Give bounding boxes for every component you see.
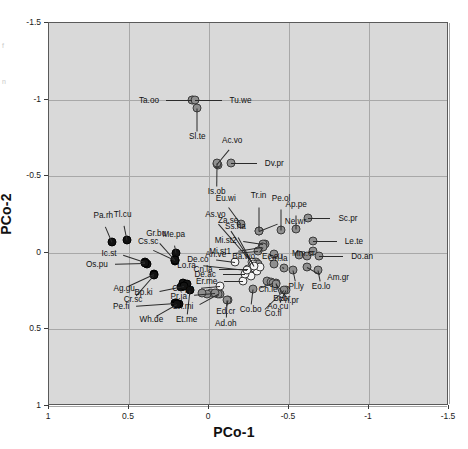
x-axis-title: PCo-1 xyxy=(0,424,468,440)
point-label-Ch.le: Ch.le xyxy=(258,285,277,294)
grid-line-vertical xyxy=(449,23,450,404)
point-label-Mm.cr: Mm.cr xyxy=(292,249,315,258)
point-label-Ad.oh: Ad.oh xyxy=(215,319,236,328)
leader-line xyxy=(281,209,282,230)
point-label-Ca.pa: Ca.pa xyxy=(172,284,194,293)
leader-line xyxy=(313,241,337,242)
x-tick-label: 1 xyxy=(46,411,51,421)
point-label-Pa.rh: Pa.rh xyxy=(94,211,114,220)
point-label-On.la: On.la xyxy=(268,254,288,263)
point-label-Co.fl: Co.fl xyxy=(265,309,282,318)
point-label-Ne.wr: Ne.wr xyxy=(285,217,306,226)
leader-line xyxy=(231,163,256,164)
point-label-Co.bo: Co.bo xyxy=(240,305,262,314)
leader-line xyxy=(308,218,330,219)
point-label-Tr.in: Tr.in xyxy=(251,191,267,200)
y-tick-label: 0.5 xyxy=(0,323,41,333)
point-label-Mi.st2: Mi.st2 xyxy=(215,236,237,245)
point-label-Ac.vo: Ac.vo xyxy=(222,136,242,145)
point-label-Pe.fi: Pe.fi xyxy=(113,302,129,311)
x-tick xyxy=(368,405,369,409)
x-tick-label: 0 xyxy=(206,411,211,421)
grid-line-vertical xyxy=(289,23,290,404)
x-tick xyxy=(288,405,289,409)
point-label-Eu.wi: Eu.wi xyxy=(216,194,236,203)
point-label-Os.pu: Os.pu xyxy=(86,260,108,269)
y-tick xyxy=(44,328,48,329)
y-axis-title: PCo-2 xyxy=(0,193,14,234)
leader-line xyxy=(195,100,222,101)
point-label-Sc.pr: Sc.pr xyxy=(338,214,357,223)
point-label-Ed.cr: Ed.cr xyxy=(216,307,235,316)
y-tick-label: -0.5 xyxy=(0,170,41,180)
point-label-Ic.st: Ic.st xyxy=(102,249,117,258)
caption-fragment: n xyxy=(2,78,6,85)
point-label-Tu.we: Tu.we xyxy=(230,96,252,105)
point-label-Pl.ly: Pl.ly xyxy=(288,282,303,291)
point-label-Do.an: Do.an xyxy=(351,252,373,261)
point-label-Wh.de: Wh.de xyxy=(140,315,164,324)
leader-line xyxy=(319,256,343,257)
point-label-Et.me: Et.me xyxy=(176,315,197,324)
x-tick xyxy=(208,405,209,409)
point-label-Bp.ki: Bp.ki xyxy=(134,288,152,297)
point-label-Pr.ja: Pr.ja xyxy=(171,292,187,301)
point-label-Ta.oo: Ta.oo xyxy=(139,96,159,105)
y-tick-label: -1.5 xyxy=(0,17,41,27)
grid-line-vertical xyxy=(369,23,370,404)
x-tick-label: -1.5 xyxy=(441,411,456,421)
y-tick-label: -1 xyxy=(0,94,41,104)
caption-fragment: f xyxy=(2,42,4,49)
y-tick xyxy=(44,405,48,406)
point-label-Sl.te: Sl.te xyxy=(189,132,205,141)
grid-line-horizontal xyxy=(49,406,447,407)
y-tick xyxy=(44,252,48,253)
grid-line-horizontal xyxy=(49,329,447,330)
point-label-Le.te: Le.te xyxy=(345,237,363,246)
point-label-Ba.wo: Ba.wo xyxy=(232,252,255,261)
point-label-Eo.lo: Eo.lo xyxy=(312,282,331,291)
point-label-Ss.ha: Ss.ha xyxy=(225,222,246,231)
leader-line xyxy=(216,164,217,187)
x-tick-label: -1 xyxy=(364,411,372,421)
point-label-Tl.cu: Tl.cu xyxy=(114,210,132,219)
x-tick-label: -0.5 xyxy=(281,411,296,421)
point-label-Ch.mi: Ch.mi xyxy=(172,302,193,311)
plot-area: Ta.ooTu.weSl.teAc.voIs.obDv.prEu.wiTr.in… xyxy=(48,22,448,405)
leader-line xyxy=(166,100,192,101)
y-tick-label: 1 xyxy=(0,400,41,410)
x-tick xyxy=(128,405,129,409)
point-label-Ap.pe: Ap.pe xyxy=(285,200,306,209)
leader-line xyxy=(224,281,243,282)
point-label-Cs.sc: Cs.sc xyxy=(138,237,158,246)
x-tick xyxy=(448,405,449,409)
x-tick-label: 0.5 xyxy=(122,411,134,421)
grid-line-horizontal xyxy=(49,176,447,177)
y-tick xyxy=(44,175,48,176)
point-label-Cn.la: Cn.la xyxy=(193,265,212,274)
pcoa-scatter-figure: Ta.ooTu.weSl.teAc.voIs.obDv.prEu.wiTr.in… xyxy=(0,0,468,449)
point-label-Dv.pr: Dv.pr xyxy=(265,159,284,168)
y-tick xyxy=(44,99,48,100)
y-tick-label: 0 xyxy=(0,247,41,257)
point-label-Lo.ra: Lo.ra xyxy=(177,261,196,270)
point-label-Ag.gu: Ag.gu xyxy=(113,284,134,293)
x-tick xyxy=(48,405,49,409)
y-tick xyxy=(44,22,48,23)
leader-line xyxy=(258,207,259,231)
